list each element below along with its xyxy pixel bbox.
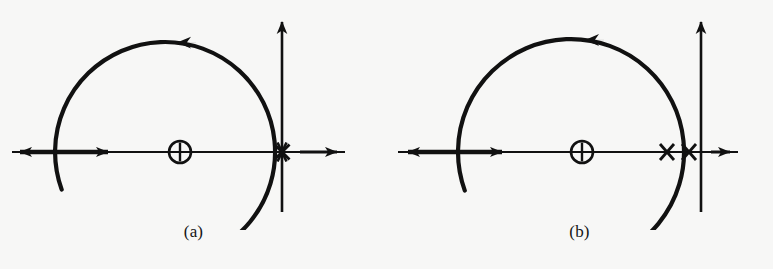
figure-root: (a) xyxy=(0,0,773,269)
panel-a-caption-text: (a) xyxy=(184,222,203,242)
panel-a-caption: (a) xyxy=(0,222,387,242)
panel-a-diagram xyxy=(0,0,387,230)
contour-arc-a xyxy=(55,42,275,230)
panel-a: (a) xyxy=(0,0,387,269)
panel-b-caption: (b) xyxy=(386,222,773,242)
panel-b: (b) xyxy=(386,0,773,269)
contour-arc-b xyxy=(458,39,684,230)
panel-b-caption-text: (b) xyxy=(569,222,589,242)
panel-b-diagram xyxy=(386,0,773,230)
